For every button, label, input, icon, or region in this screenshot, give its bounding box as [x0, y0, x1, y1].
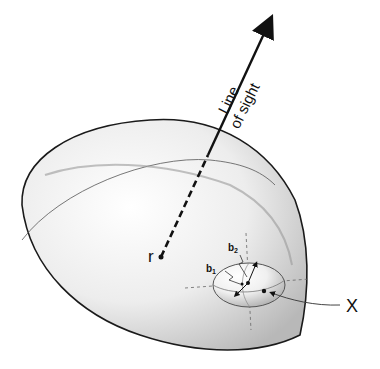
center-point [159, 255, 164, 260]
line-of-sight-label: Line of sight [211, 72, 263, 131]
center-label-r: r [148, 247, 154, 266]
ellipsoid-diagram: Line of sight r b1 b2 X [0, 0, 380, 369]
label-x: X [346, 296, 358, 316]
large-ellipsoid [22, 120, 307, 350]
